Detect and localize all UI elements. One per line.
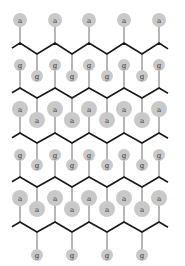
bead-label: a [35, 117, 39, 125]
bead-label: g [35, 73, 40, 81]
backbone-chain-5 [12, 222, 168, 232]
bead-a: a [12, 101, 28, 117]
bead-label: g [18, 62, 23, 70]
side-group-beads: aaaaagggggggggaaaaaaaaagggggggggaaaaaaaa… [12, 13, 167, 261]
bead-label: a [105, 117, 109, 125]
bead-g: g [101, 159, 113, 171]
bead-label: a [122, 17, 126, 25]
bead-a: a [116, 101, 132, 117]
bead-a: a [117, 13, 131, 27]
bead-label: g [157, 62, 162, 70]
bead-a: a [12, 190, 28, 206]
bead-label: a [122, 195, 126, 203]
bead-label: a [70, 117, 74, 125]
bead-label: g [18, 152, 23, 160]
bead-a: a [48, 13, 62, 27]
side-chain-stems [20, 20, 159, 255]
bead-label: a [87, 195, 91, 203]
bead-label: a [157, 106, 161, 114]
bead-a: a [99, 201, 115, 217]
backbone-chain-3 [12, 133, 168, 143]
bead-g: g [31, 249, 43, 261]
bead-g: g [31, 159, 43, 171]
bead-g: g [153, 59, 165, 71]
bead-a: a [47, 101, 63, 117]
bead-g: g [101, 249, 113, 261]
bead-a: a [81, 190, 97, 206]
bead-g: g [14, 59, 26, 71]
bead-label: g [87, 152, 92, 160]
bead-label: g [122, 62, 127, 70]
bead-g: g [153, 149, 165, 161]
bead-label: a [140, 117, 144, 125]
bead-a: a [29, 112, 45, 128]
bead-label: a [140, 206, 144, 214]
bead-g: g [136, 159, 148, 171]
bead-a: a [47, 190, 63, 206]
bead-label: g [105, 252, 110, 260]
bead-label: g [70, 252, 75, 260]
bead-g: g [101, 70, 113, 82]
bead-g: g [14, 149, 26, 161]
bead-label: a [18, 195, 22, 203]
bead-label: a [70, 206, 74, 214]
bead-g: g [31, 70, 43, 82]
bead-label: g [35, 252, 40, 260]
bead-label: a [18, 106, 22, 114]
bead-g: g [49, 149, 61, 161]
bead-label: g [140, 162, 145, 170]
bead-g: g [136, 70, 148, 82]
bead-g: g [118, 149, 130, 161]
bead-label: a [18, 17, 22, 25]
bead-label: g [157, 152, 162, 160]
bead-a: a [134, 201, 150, 217]
bead-label: g [70, 73, 75, 81]
bead-a: a [82, 13, 96, 27]
bead-label: a [35, 206, 39, 214]
bead-label: a [53, 106, 57, 114]
bead-a: a [99, 112, 115, 128]
bead-label: g [140, 73, 145, 81]
bead-a: a [13, 13, 27, 27]
bead-label: g [105, 73, 110, 81]
bead-label: g [53, 62, 58, 70]
bead-label: g [87, 62, 92, 70]
bead-a: a [29, 201, 45, 217]
bead-a: a [64, 201, 80, 217]
bead-label: a [105, 206, 109, 214]
bead-label: g [53, 152, 58, 160]
bead-label: g [140, 252, 145, 260]
bead-label: a [157, 195, 161, 203]
bead-g: g [49, 59, 61, 71]
polymer-diagram: aaaaagggggggggaaaaaaaaagggggggggaaaaaaaa… [0, 0, 185, 266]
bead-label: g [105, 162, 110, 170]
bead-label: g [35, 162, 40, 170]
bead-a: a [151, 101, 167, 117]
bead-a: a [81, 101, 97, 117]
bead-g: g [83, 59, 95, 71]
bead-label: a [87, 106, 91, 114]
bead-g: g [83, 149, 95, 161]
bead-label: g [122, 152, 127, 160]
backbone-chain-4 [12, 177, 168, 187]
bead-g: g [66, 249, 78, 261]
bead-label: a [53, 195, 57, 203]
bead-label: a [157, 17, 161, 25]
backbone-chain-2 [12, 88, 168, 98]
bead-g: g [118, 59, 130, 71]
bead-a: a [134, 112, 150, 128]
backbone-chain-1 [12, 43, 168, 54]
bead-g: g [66, 159, 78, 171]
bead-a: a [152, 13, 166, 27]
bead-g: g [136, 249, 148, 261]
bead-label: a [53, 17, 57, 25]
bead-label: a [87, 17, 91, 25]
bead-a: a [151, 190, 167, 206]
bead-g: g [66, 70, 78, 82]
bead-label: g [70, 162, 75, 170]
bead-a: a [64, 112, 80, 128]
bead-a: a [116, 190, 132, 206]
bead-label: a [122, 106, 126, 114]
